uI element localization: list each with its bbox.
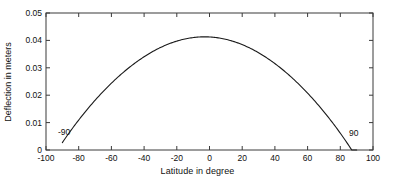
plot-area bbox=[0, 0, 395, 192]
data-curve bbox=[62, 37, 356, 150]
axes-box bbox=[46, 13, 373, 150]
axis-ticks bbox=[46, 13, 373, 150]
chart-figure: Deflection in meters Latitude in degree … bbox=[0, 0, 395, 192]
